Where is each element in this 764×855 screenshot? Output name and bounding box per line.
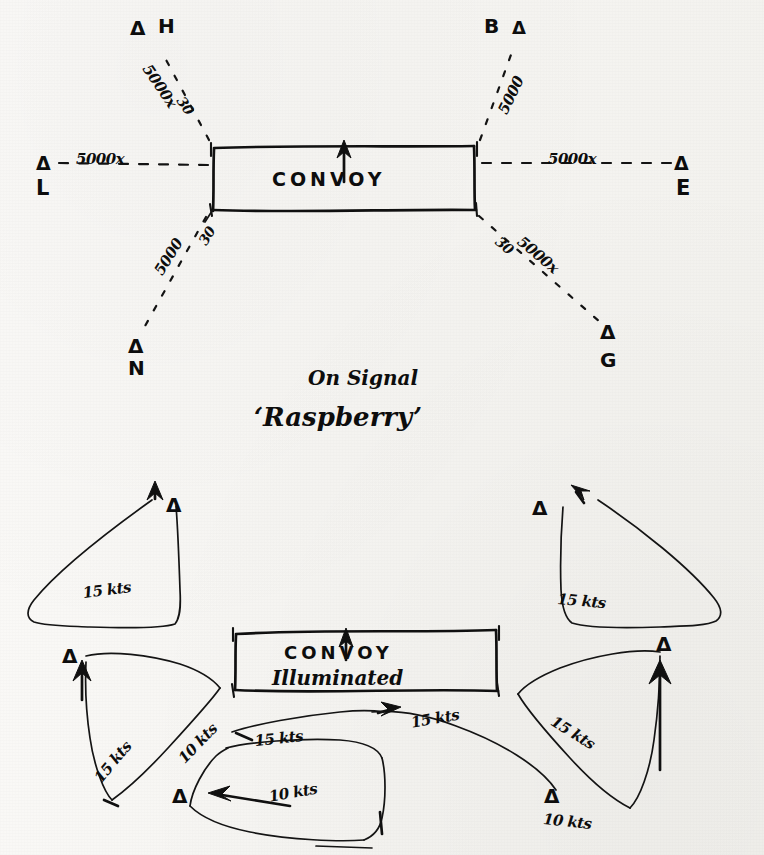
escort-label-N: N: [128, 358, 145, 378]
track-starboard-beam: [518, 651, 671, 808]
escort-label-H: H: [158, 16, 175, 36]
track-marker-port-beam: Δ: [62, 646, 77, 666]
escort-marker-N: Δ: [128, 336, 143, 356]
track-marker-port-bow: Δ: [166, 495, 181, 515]
track-marker-astern-return: Δ: [172, 786, 187, 806]
track-starboard-quarter-link: [372, 702, 556, 790]
escort-marker-G: Δ: [600, 322, 615, 342]
escort-label-G: G: [600, 350, 616, 370]
track-marker-starboard-beam: Δ: [656, 634, 671, 654]
convoy-box-label-lower-line1: CONVOY: [284, 644, 393, 662]
escort-marker-L: Δ: [36, 154, 51, 173]
signal-caption-line1: On Signal: [308, 368, 418, 388]
signal-caption-line2: ‘Raspberry’: [254, 404, 422, 430]
escort-marker-H: Δ: [130, 18, 145, 38]
range-label-port-beam: 5000x: [76, 152, 124, 167]
stray-pen-mark: [316, 846, 372, 848]
convoy-box-label-upper: CONVOY: [272, 170, 386, 189]
track-marker-stern-link: Δ: [544, 786, 559, 806]
speed-label-upper-right: 15 kts: [557, 592, 606, 611]
track-marker-starboard-bow: Δ: [532, 498, 547, 518]
escort-label-B: B: [484, 16, 499, 36]
escort-label-L: L: [36, 178, 49, 199]
escort-label-E: E: [676, 178, 690, 199]
escort-marker-B: Δ: [512, 19, 526, 37]
escort-marker-E: Δ: [674, 154, 689, 173]
convoy-box-label-lower-line2: Illuminated: [272, 668, 403, 688]
escort-bearing-lines-upper: [58, 52, 672, 335]
range-label-starboard-beam: 5000x: [548, 152, 596, 167]
track-port-bow: [28, 481, 180, 628]
